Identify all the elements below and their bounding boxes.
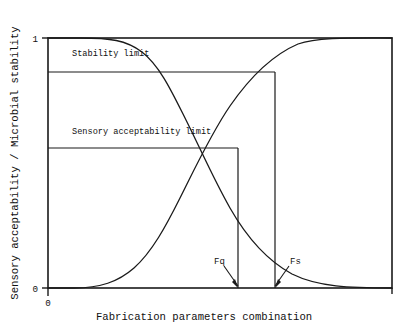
x-axis-origin-label: 0 — [45, 298, 51, 309]
fs-arrow-head — [275, 279, 281, 288]
y-axis-min-label: 0 — [32, 284, 38, 295]
chart-canvas: Stability limit Sensory acceptability li… — [0, 0, 403, 325]
curve-microbial-stability — [48, 38, 392, 288]
curve-sensory-acceptability — [48, 38, 392, 288]
fq-label: Fq — [214, 257, 225, 267]
figure-container: Stability limit Sensory acceptability li… — [0, 0, 403, 325]
sensory-limit-label: Sensory acceptability limit — [72, 127, 211, 137]
plot-frame — [48, 38, 392, 288]
fs-label: Fs — [290, 257, 301, 267]
stability-limit-label: Stability limit — [72, 49, 149, 59]
fq-arrow-head — [232, 279, 238, 288]
x-axis-title: Fabrication parameters combination — [96, 311, 312, 323]
y-axis-title: Sensory acceptability / Microbial stabil… — [9, 26, 21, 299]
y-axis-max-label: 1 — [32, 34, 38, 45]
